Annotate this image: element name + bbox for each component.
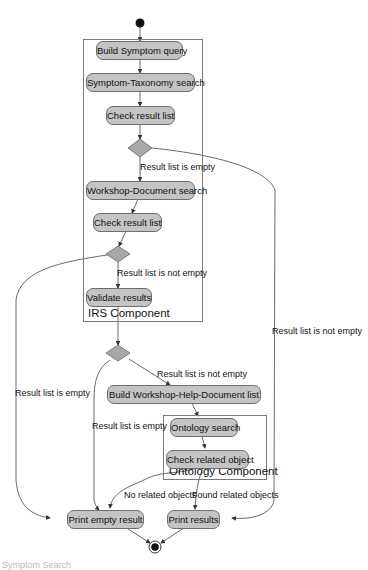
edge-label-found-related: Found related objects	[192, 490, 279, 500]
edge-label-d3-not-empty: Result list is not empty	[157, 369, 247, 379]
activity-print-results[interactable]: Print results	[167, 510, 220, 529]
edge-label-no-related: No related objects	[124, 490, 197, 500]
initial-state	[136, 19, 145, 28]
activity-validate-results[interactable]: Validate results	[86, 288, 152, 307]
edge-label-d2-empty: Result list is empty	[15, 388, 90, 398]
activity-ontology-search[interactable]: Ontology search	[170, 418, 238, 437]
edge-label-d1-empty: Result list is empty	[140, 162, 215, 172]
activity-check-related-object[interactable]: Check related object	[166, 450, 249, 469]
edge-label-d3-empty: Result list is empty	[92, 421, 167, 431]
edge-label-d2-not-empty: Result list is not empty	[117, 268, 207, 278]
activity-symptom-taxonomy-search[interactable]: Symptom-Taxonomy search	[86, 73, 195, 92]
activity-check-result-list-1[interactable]: Check result list	[106, 106, 175, 125]
irs-component-label: IRS Component	[88, 307, 170, 319]
edge-label-d1-not-empty: Result list is not empty	[272, 326, 362, 336]
activity-build-symptom-query[interactable]: Build Symptom query	[96, 41, 183, 60]
activity-check-result-list-2[interactable]: Check result list	[93, 213, 162, 232]
activity-print-empty-result[interactable]: Print empty result	[67, 510, 144, 529]
decision-3	[106, 345, 130, 361]
activity-build-workshop-help-document-list[interactable]: Build Workshop-Help-Document list	[107, 385, 261, 404]
activity-workshop-document-search[interactable]: Workshop-Document search	[86, 181, 195, 200]
figure-caption: Symptom Search	[2, 560, 71, 570]
